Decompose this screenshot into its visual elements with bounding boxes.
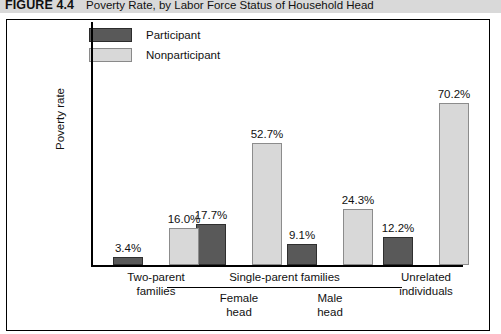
- y-axis-title: Poverty rate: [54, 88, 66, 150]
- bar-value-label: 16.0%: [160, 213, 208, 225]
- category-group-label: Single-parent families: [205, 271, 365, 285]
- bar-nonparticipant-1: [252, 143, 282, 265]
- bar-value-label: 12.2%: [374, 222, 422, 234]
- bar-participant-2: [287, 244, 317, 265]
- bar-value-label: 9.1%: [278, 229, 326, 241]
- bar-participant-3: [383, 237, 413, 265]
- bar-value-label: 3.4%: [104, 242, 152, 254]
- bar-participant-0: [113, 257, 143, 265]
- x-axis-line: [91, 265, 463, 267]
- plot-area: 3.4%17.7%9.1%12.2%16.0%52.7%24.3%70.2%: [91, 22, 463, 266]
- bar-nonparticipant-0: [169, 228, 199, 265]
- x-axis-labels: Single-parent familiesTwo-parentfamilies…: [7, 270, 490, 330]
- y-axis-line: [91, 22, 93, 266]
- figure-title: Poverty Rate, by Labor Force Status of H…: [74, 0, 374, 11]
- bar-value-label: 70.2%: [430, 88, 478, 100]
- chart-frame: Participant Nonparticipant Poverty rate …: [6, 19, 490, 331]
- figure-header: FIGURE 4.4 Poverty Rate, by Labor Force …: [0, 0, 501, 13]
- bar-value-label: 52.7%: [243, 128, 291, 140]
- bar-nonparticipant-3: [439, 103, 469, 265]
- category-label-3: Unrelatedindividuals: [366, 271, 486, 298]
- figure-number: FIGURE 4.4: [0, 0, 74, 12]
- bar-participant-1: [196, 224, 226, 265]
- bar-value-label: 24.3%: [334, 194, 382, 206]
- bar-nonparticipant-2: [343, 209, 373, 265]
